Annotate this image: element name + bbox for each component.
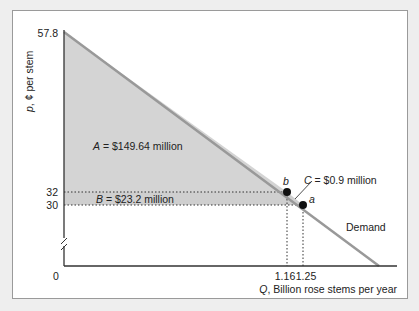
point-b bbox=[283, 188, 291, 196]
y-tick-578: 57.8 bbox=[38, 27, 59, 39]
point-b-label: b bbox=[283, 175, 289, 187]
x-tick-0: 0 bbox=[53, 270, 59, 282]
x-axis-label: Q, Billion rose stems per year bbox=[259, 283, 397, 295]
demand-label: Demand bbox=[346, 221, 386, 233]
demand-chart: p, ¢ per stem 57.8 32 30 0 1.16 1.25 Q, … bbox=[0, 0, 419, 311]
y-tick-32: 32 bbox=[46, 186, 58, 198]
x-tick-125: 1.25 bbox=[296, 270, 317, 282]
x-tick-116: 1.16 bbox=[275, 270, 296, 282]
point-a-label: a bbox=[309, 193, 315, 205]
area-c-label: C = $0.9 million bbox=[304, 174, 377, 186]
point-a bbox=[299, 201, 307, 209]
area-b-label: B = $23.2 million bbox=[96, 193, 174, 205]
y-axis-label: p, ¢ per stem bbox=[23, 50, 35, 113]
y-tick-30: 30 bbox=[46, 199, 58, 211]
area-a-label: A = $149.64 million bbox=[92, 140, 183, 152]
